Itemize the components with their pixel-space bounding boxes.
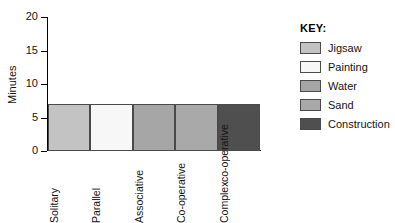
- x-axis-label-line: Co-operative: [175, 163, 187, 223]
- y-axis-tick-mark: [41, 17, 47, 18]
- x-axis-label-line: Parallel: [90, 188, 102, 223]
- y-axis-tick: 15: [41, 51, 47, 52]
- y-axis-tick-mark: [41, 51, 47, 52]
- legend-swatch: [300, 99, 321, 111]
- x-axis-label-line: Solitary: [48, 188, 60, 223]
- y-axis-tick: 0: [41, 151, 47, 152]
- x-axis-label: Co-operative: [175, 154, 217, 223]
- legend-item: Jigsaw: [300, 39, 395, 57]
- y-axis-tick-mark: [41, 84, 47, 85]
- legend-item-label: Jigsaw: [328, 42, 362, 55]
- legend-swatch: [300, 42, 321, 54]
- legend-item-label: Construction: [328, 118, 390, 131]
- bar-chart: Minutes 05101520 SolitaryParallelAssocia…: [0, 0, 280, 223]
- x-axis-label-line: co-operative: [218, 124, 230, 182]
- x-axis-label: Solitary: [48, 154, 90, 223]
- bar: [133, 104, 175, 151]
- x-axis-label-line: Associative: [133, 170, 145, 223]
- y-axis-tick: 20: [41, 17, 47, 18]
- y-axis-tick-mark: [41, 151, 47, 152]
- legend-item-label: Sand: [328, 99, 354, 112]
- y-axis-tick-label: 0: [32, 144, 38, 157]
- legend-item: Water: [300, 77, 395, 95]
- legend-item: Painting: [300, 58, 395, 76]
- legend-items: JigsawPaintingWaterSandConstruction: [300, 39, 395, 133]
- y-axis-tick: 5: [41, 118, 47, 119]
- y-axis-tick-label: 15: [26, 44, 38, 57]
- y-axis-title: Minutes: [4, 50, 20, 120]
- legend-swatch: [300, 61, 321, 73]
- y-axis-tick-label: 5: [32, 111, 38, 124]
- x-axis-labels: SolitaryParallelAssociativeCo-operativeC…: [48, 152, 260, 223]
- y-axis-tick-label: 20: [26, 10, 38, 23]
- legend-item-label: Water: [328, 80, 357, 93]
- legend: KEY: JigsawPaintingWaterSandConstruction: [300, 22, 395, 134]
- legend-swatch: [300, 80, 321, 92]
- legend-item-label: Painting: [328, 61, 368, 74]
- x-axis-label: Associative: [133, 154, 175, 223]
- y-axis-tick: 10: [41, 84, 47, 85]
- x-axis-label: Parallel: [90, 154, 132, 223]
- x-axis-label-line: Complex: [218, 182, 230, 223]
- legend-item: Sand: [300, 96, 395, 114]
- legend-swatch: [300, 118, 321, 130]
- bar: [48, 104, 90, 151]
- y-axis-tick-label: 10: [26, 77, 38, 90]
- legend-title: KEY:: [300, 22, 395, 35]
- x-axis-label: Complexco-operative: [218, 154, 260, 223]
- bar: [175, 104, 217, 151]
- y-axis-tick-mark: [41, 118, 47, 119]
- bar: [90, 104, 132, 151]
- legend-item: Construction: [300, 115, 395, 133]
